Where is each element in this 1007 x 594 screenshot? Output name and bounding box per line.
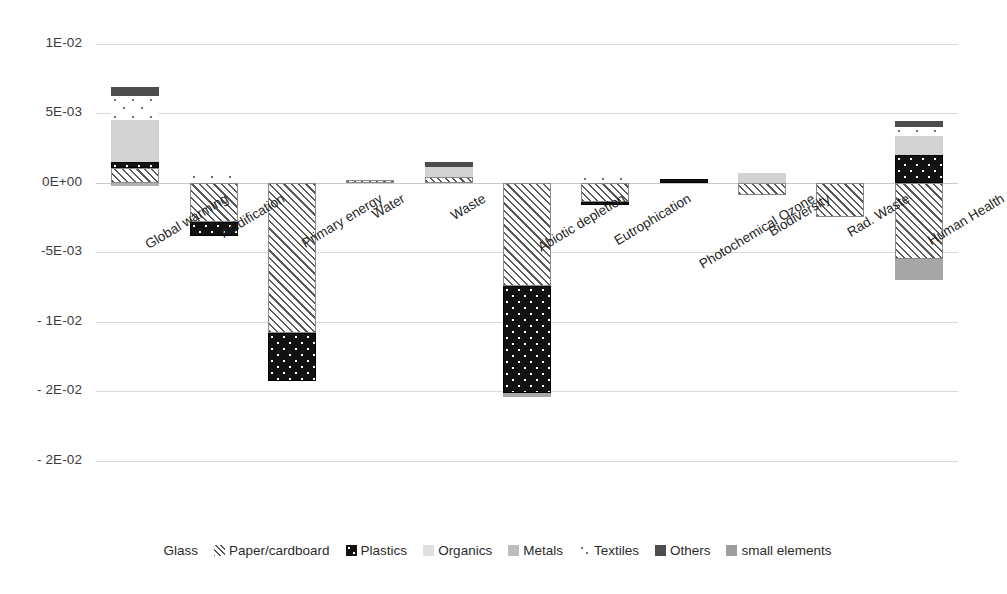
bar-segment[interactable] [111,96,159,120]
legend-item[interactable]: small elements [726,543,831,558]
organics-swatch [423,545,434,556]
y-axis-tick-label: - 1E-02 [37,313,82,328]
bar-segment[interactable] [738,173,786,183]
metals-swatch [508,545,519,556]
bar-segment[interactable] [660,179,708,182]
bar-group[interactable] [738,30,786,530]
bar-segment[interactable] [895,121,943,127]
bar-segment[interactable] [895,259,943,280]
legend-item[interactable]: Metals [508,543,563,558]
bar-group[interactable] [111,30,159,530]
bar-group[interactable] [346,30,394,530]
bar-group[interactable] [190,30,238,530]
others-swatch [655,545,666,556]
legend-item-label: Plastics [361,543,408,558]
bar-group[interactable] [895,30,943,530]
legend-item-label: Metals [523,543,563,558]
legend-item-label: Paper/cardboard [229,543,330,558]
bar-group[interactable] [816,30,864,530]
y-axis-tick-label: -5E-03 [41,243,82,258]
bar-series-container [96,30,958,530]
plot-area [96,30,958,530]
bar-group[interactable] [503,30,551,530]
legend-item[interactable]: Plastics [346,543,408,558]
paper-swatch [214,545,225,556]
bar-segment[interactable] [111,120,159,162]
legend-item[interactable]: Paper/cardboard [214,543,330,558]
bar-segment[interactable] [111,168,159,183]
chart-legend: GlassPaper/cardboardPlasticsOrganicsMeta… [0,543,980,558]
bar-segment[interactable] [190,173,238,183]
bar-group[interactable] [660,30,708,530]
bar-segment[interactable] [111,162,159,168]
legend-item-label: Others [670,543,711,558]
bar-group[interactable] [425,30,473,530]
legend-item-label: Organics [438,543,492,558]
bar-segment[interactable] [738,183,786,196]
legend-item[interactable]: Textiles [579,543,639,558]
bar-segment[interactable] [503,393,551,398]
small-elements-swatch [726,545,737,556]
legend-item[interactable]: Others [655,543,711,558]
bar-segment[interactable] [111,183,159,186]
bar-segment[interactable] [895,155,943,183]
glass-swatch [149,545,160,556]
bar-segment[interactable] [111,87,159,97]
bar-segment[interactable] [895,127,943,136]
y-axis-labels: 1E-025E-030E+00-5E-03- 1E-02- 2E-02- 2E-… [0,30,92,530]
legend-item-label: small elements [741,543,831,558]
bar-group[interactable] [581,30,629,530]
legend-item-label: Glass [164,543,199,558]
legend-item-label: Textiles [594,543,639,558]
y-axis-tick-label: 1E-02 [45,35,82,50]
y-axis-tick-label: 0E+00 [42,174,82,189]
bar-segment[interactable] [581,175,629,183]
bar-segment[interactable] [268,333,316,381]
bar-group[interactable] [268,30,316,530]
bar-segment[interactable] [503,286,551,393]
textiles-swatch [579,545,590,556]
bar-segment[interactable] [425,177,473,183]
bar-segment[interactable] [503,183,551,286]
y-axis-tick-label: - 2E-02 [37,452,82,467]
bar-segment[interactable] [425,162,473,168]
legend-item[interactable]: Organics [423,543,492,558]
y-axis-tick-label: - 2E-02 [37,382,82,397]
y-axis-tick-label: 5E-03 [45,104,82,119]
bar-segment[interactable] [425,167,473,177]
bar-segment[interactable] [346,180,394,183]
plastics-swatch [346,545,357,556]
legend-item[interactable]: Glass [149,543,199,558]
bar-segment[interactable] [895,136,943,155]
